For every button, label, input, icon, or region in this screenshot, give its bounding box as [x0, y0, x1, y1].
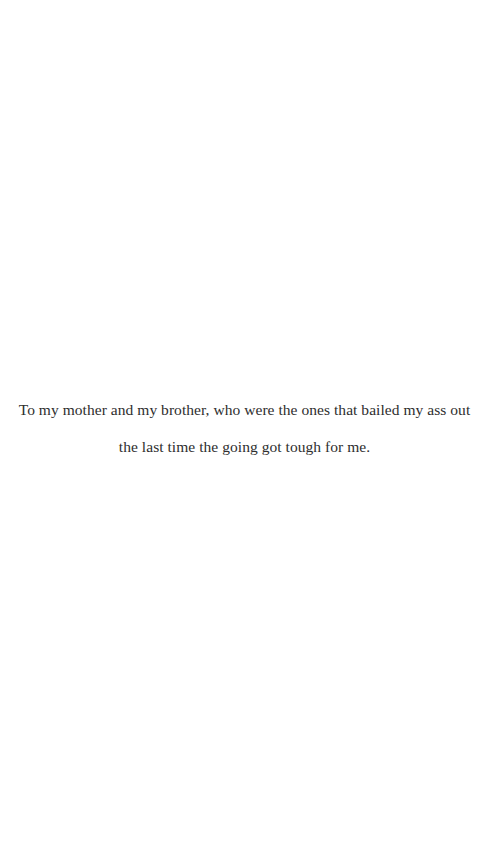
dedication-line-1: To my mother and my brother, who were th…	[0, 391, 489, 428]
dedication-line-2: the last time the going got tough for me…	[0, 428, 489, 465]
book-page: To my mother and my brother, who were th…	[0, 0, 489, 864]
dedication-text: To my mother and my brother, who were th…	[0, 391, 489, 465]
